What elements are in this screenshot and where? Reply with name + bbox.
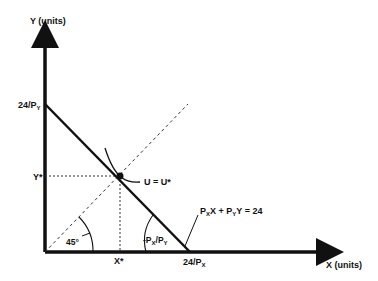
x-intercept-label: 24/PX xyxy=(183,257,206,268)
y-axis-label: Y (units) xyxy=(30,16,66,26)
slope-label: -PX/PY xyxy=(143,235,168,246)
angle-45-label: 45° xyxy=(66,237,79,247)
budget-constraint-diagram: Y (units) X (units) 24/PY 24/PX Y* X* U … xyxy=(0,0,378,281)
y-intercept-label: 24/PY xyxy=(18,100,41,111)
budget-leader xyxy=(185,215,198,246)
x-axis-label: X (units) xyxy=(326,260,362,270)
x-star-label: X* xyxy=(114,256,124,266)
utility-label: U = U* xyxy=(144,177,171,187)
angle-45-pointer xyxy=(82,233,90,236)
y-star-label: Y* xyxy=(33,172,43,182)
optimum-point xyxy=(117,173,124,180)
budget-equation-label: PXX + PYY = 24 xyxy=(200,206,262,217)
angle-arc-slope xyxy=(145,215,153,252)
